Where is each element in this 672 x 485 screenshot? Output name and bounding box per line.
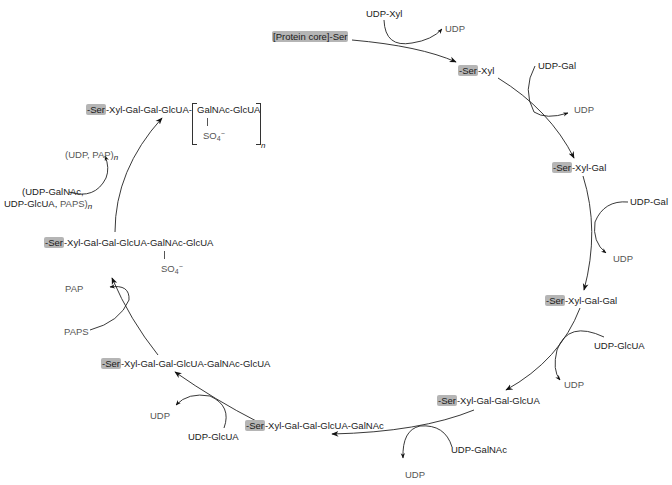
donor-udp-glcua-2: UDP-GlcUA (188, 431, 239, 443)
product-udp-6: UDP (150, 410, 170, 422)
arc-n6-n7 (112, 278, 158, 355)
node-polymer-chain: -Ser-Xyl-Gal-Gal-GlcUA- (86, 104, 192, 116)
product-udp-2: UDP (574, 104, 594, 116)
ser-highlight: -Ser (101, 358, 121, 369)
sulfate-substituent: SO4− (161, 261, 183, 278)
arc-n0-n1 (352, 40, 456, 62)
donor-udp-xyl: UDP-Xyl (366, 8, 402, 20)
ser-highlight: [Protein core]-Ser (272, 31, 348, 42)
side-udpgal-1 (528, 66, 568, 116)
donor-polymer-line1: (UDP-GalNAc, (22, 186, 84, 198)
ser-highlight: -Ser (86, 104, 106, 115)
product-udp-1: UDP (445, 23, 465, 35)
side-udpglcua-1 (555, 331, 604, 380)
node-ser-xyl-gal: -Ser-Xyl-Gal (552, 162, 606, 174)
donor-paps: PAPS (64, 326, 89, 338)
node-ser-xyl: -Ser-Xyl (458, 65, 494, 77)
ser-highlight: -Ser (458, 65, 478, 76)
donor-udp-gal-1: UDP-Gal (538, 60, 576, 72)
arc-n7-n8 (115, 118, 162, 232)
ser-highlight: -Ser (437, 395, 457, 406)
ser-highlight: -Ser (552, 162, 572, 173)
node-ser-xyl-gal-gal-glcua-galnac-glcua: -Ser-Xyl-Gal-Gal-GlcUA-GalNAc-GlcUA (101, 358, 270, 370)
donor-udp-galnac: UDP-GalNAc (451, 444, 507, 456)
ser-highlight: -Ser (245, 420, 265, 431)
arc-n2-n3 (583, 176, 592, 290)
donor-udp-glcua-1: UDP-GlcUA (594, 340, 645, 352)
product-udp-4: UDP (564, 379, 584, 391)
node-ser-xyl-gal-gal-glcua-galnac: -Ser-Xyl-Gal-Gal-GlcUA-GalNAc (245, 420, 384, 432)
repeat-unit: GalNAc-GlcUA (197, 104, 260, 116)
product-polymer: (UDP, PAP)n (65, 149, 118, 164)
side-paps (90, 287, 129, 330)
product-pap: PAP (65, 283, 83, 295)
arc-n1-n2 (498, 78, 574, 158)
repeat-sulfate-bond (207, 118, 208, 126)
ser-highlight: -Ser (44, 237, 64, 248)
side-udpgal-2 (594, 202, 628, 253)
side-udpxyl (384, 20, 442, 44)
ser-highlight: -Ser (545, 295, 565, 306)
side-udpgalnac (403, 426, 452, 458)
product-udp-5: UDP (405, 469, 425, 481)
node-sulfated-disaccharide: -Ser-Xyl-Gal-Gal-GlcUA-GalNAc-GlcUA (44, 237, 213, 249)
arc-n3-n4 (506, 308, 580, 390)
product-udp-3: UDP (613, 253, 633, 265)
node-ser-xyl-gal-gal: -Ser-Xyl-Gal-Gal (545, 295, 617, 307)
repeat-sulfate-substituent: SO4− (203, 128, 225, 145)
repeat-count: n (261, 137, 265, 152)
donor-polymer-line2: UDP-GlcUA, PAPS)n (4, 198, 92, 213)
sulfate-bond (164, 251, 165, 259)
node-ser-xyl-gal-gal-glcua: -Ser-Xyl-Gal-Gal-GlcUA (437, 395, 540, 407)
node-protein-core-ser: [Protein core]-Ser (272, 31, 348, 43)
donor-udp-gal-2: UDP-Gal (630, 196, 668, 208)
